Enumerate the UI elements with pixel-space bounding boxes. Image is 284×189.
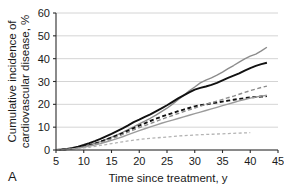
tick-marks bbox=[53, 13, 278, 153]
y-axis-title: Cumulative incidence ofcardiovascular di… bbox=[6, 15, 31, 149]
x-tick-label-25: 25 bbox=[161, 155, 173, 167]
y-axis-tick-labels: 0102030405060 bbox=[38, 7, 50, 156]
gridlines bbox=[56, 13, 278, 150]
panel-label: A bbox=[8, 169, 17, 184]
x-tick-label-30: 30 bbox=[189, 155, 201, 167]
y-tick-label-10: 10 bbox=[38, 121, 50, 133]
x-tick-label-10: 10 bbox=[78, 155, 90, 167]
series-line-gray-solid-lower bbox=[56, 95, 267, 150]
x-tick-label-15: 15 bbox=[105, 155, 117, 167]
y-axis-title-line-2: cardiovascular disease, % bbox=[19, 15, 31, 149]
x-tick-label-5: 5 bbox=[53, 155, 59, 167]
x-axis-tick-labels: 51015202530354045 bbox=[53, 155, 284, 167]
figure-panel: 0102030405060 51015202530354045 Time sin… bbox=[0, 0, 284, 189]
x-tick-label-45: 45 bbox=[272, 155, 284, 167]
y-tick-label-0: 0 bbox=[44, 144, 50, 156]
y-tick-label-60: 60 bbox=[38, 7, 50, 19]
series-line-black-solid bbox=[56, 63, 267, 150]
y-tick-label-30: 30 bbox=[38, 76, 50, 88]
series-line-gray-dashed-upper bbox=[56, 86, 267, 150]
series-group bbox=[56, 47, 267, 150]
x-tick-label-20: 20 bbox=[133, 155, 145, 167]
y-tick-label-20: 20 bbox=[38, 98, 50, 110]
series-line-light-gray-dashed-lowest bbox=[56, 133, 250, 150]
y-tick-label-40: 40 bbox=[38, 53, 50, 65]
y-axis-title-line-1: Cumulative incidence of bbox=[6, 20, 18, 143]
x-axis-title: Time since treatment, y bbox=[108, 172, 227, 184]
x-tick-label-40: 40 bbox=[244, 155, 256, 167]
x-tick-label-35: 35 bbox=[216, 155, 228, 167]
y-tick-label-50: 50 bbox=[38, 30, 50, 42]
cumulative-incidence-chart: 0102030405060 51015202530354045 Time sin… bbox=[0, 0, 284, 189]
